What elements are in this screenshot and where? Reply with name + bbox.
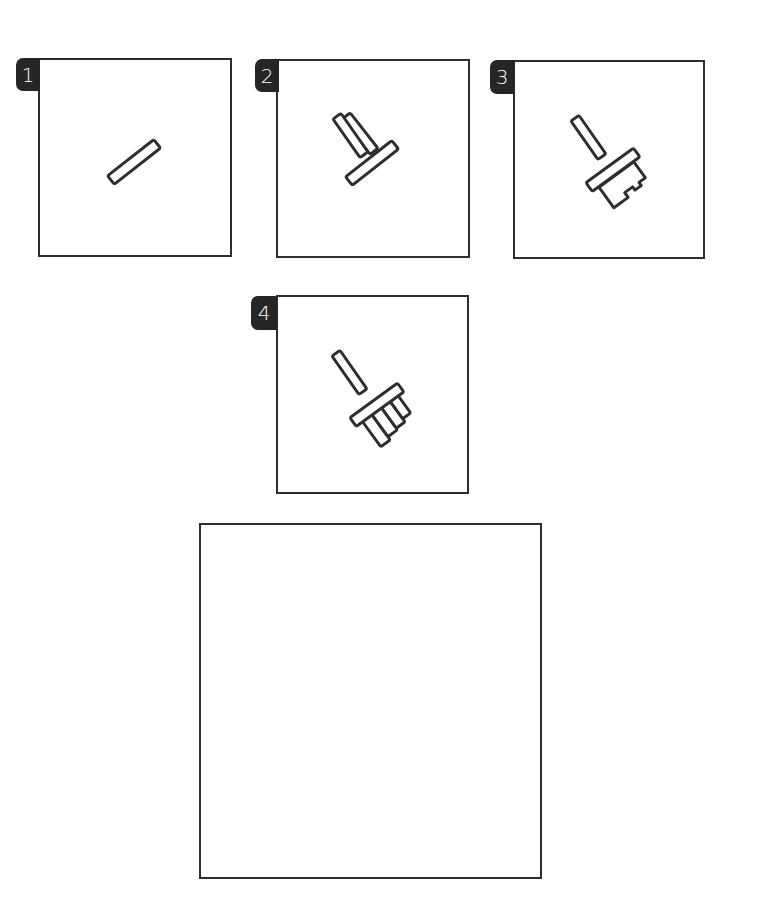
step-2-panel [276,59,470,258]
brush-step-3-drawing [515,62,703,257]
step-1-panel [38,58,232,257]
step-number: 3 [496,65,509,89]
brush-step-1-drawing [40,60,230,255]
step-1-badge: 1 [16,58,40,91]
practice-drawing-area[interactable] [199,523,542,879]
step-4-badge: 4 [251,296,277,330]
step-number: 4 [258,301,271,325]
brush-step-2-drawing [278,61,468,256]
step-number: 2 [261,64,274,88]
step-3-badge: 3 [490,60,514,94]
step-2-badge: 2 [255,59,279,92]
step-3-panel [513,60,705,259]
step-4-panel [276,295,469,494]
step-number: 1 [22,63,35,87]
brush-step-4-drawing [278,297,467,492]
